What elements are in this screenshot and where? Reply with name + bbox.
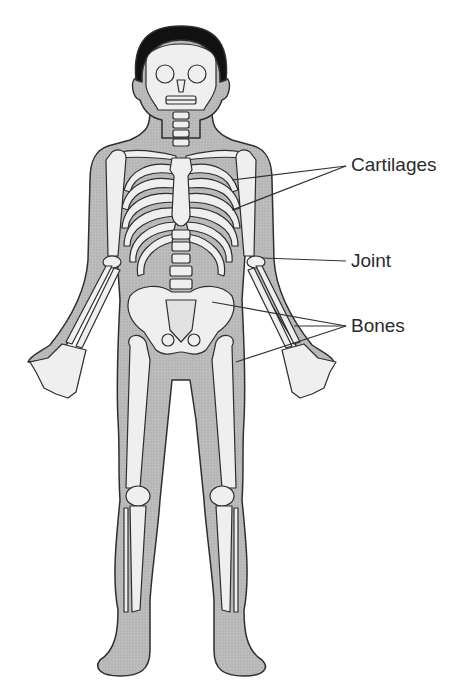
label-joint: Joint xyxy=(351,251,391,270)
label-bones: Bones xyxy=(351,316,405,335)
label-cartilages: Cartilages xyxy=(351,155,437,174)
skeleton-diagram xyxy=(0,0,466,694)
